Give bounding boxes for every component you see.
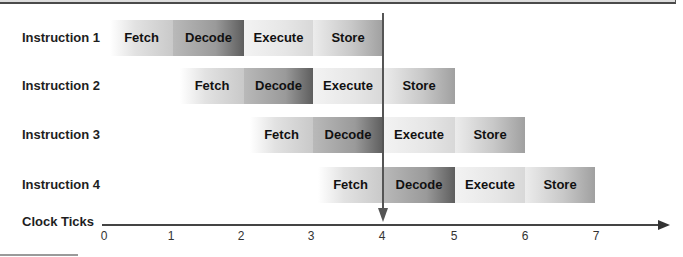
instruction-2-execute: Execute (313, 68, 383, 104)
instruction-3-decode: Decode (313, 117, 383, 153)
footer-rule (0, 254, 78, 256)
instruction-1-execute: Execute (244, 20, 313, 56)
instruction-3-store: Store (455, 117, 525, 153)
instruction-2-store: Store (383, 68, 455, 104)
current-tick-marker-line (382, 13, 384, 213)
axis-label: Clock Ticks (22, 214, 94, 229)
instruction-4-execute: Execute (455, 167, 525, 203)
instruction-3-fetch: Fetch (250, 117, 313, 153)
tick-label: 1 (164, 229, 178, 243)
instruction-2-decode: Decode (244, 68, 313, 104)
instruction-1-decode: Decode (173, 20, 244, 56)
tick-label: 7 (589, 229, 603, 243)
instruction-1-fetch: Fetch (110, 20, 173, 56)
right-arrow-icon (658, 220, 670, 230)
instruction-4-fetch: Fetch (318, 167, 383, 203)
tick-label: 5 (447, 229, 461, 243)
tick-label: 4 (375, 229, 389, 243)
instruction-3-execute: Execute (383, 117, 455, 153)
tick-label: 6 (518, 229, 532, 243)
instruction-2-fetch: Fetch (180, 68, 244, 104)
instruction-1-store: Store (313, 20, 383, 56)
tick-label: 0 (97, 229, 111, 243)
instruction-1-label: Instruction 1 (22, 20, 100, 56)
instruction-4-label: Instruction 4 (22, 167, 100, 203)
instruction-3-label: Instruction 3 (22, 117, 100, 153)
top-banner (0, 0, 676, 4)
tick-label: 2 (234, 229, 248, 243)
down-arrow-icon (378, 208, 388, 222)
time-axis-line (102, 224, 660, 226)
instruction-4-store: Store (525, 167, 595, 203)
instruction-2-label: Instruction 2 (22, 68, 100, 104)
instruction-4-decode: Decode (383, 167, 455, 203)
tick-label: 3 (304, 229, 318, 243)
